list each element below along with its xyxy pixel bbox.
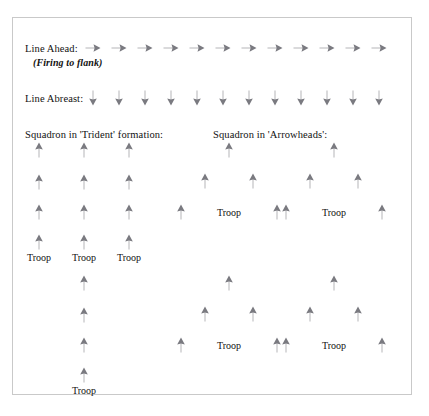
- arrow-line-ahead-icon: [85, 40, 101, 56]
- troop-label: Troop: [217, 341, 241, 351]
- firing-to-flank-label: (Firing to flank): [33, 58, 103, 68]
- diagram-canvas: Line Ahead: (Firing to flank) Line Abrea…: [13, 18, 411, 394]
- arrow-line-ahead-icon: [215, 40, 231, 56]
- arrow-arrowhead-4-icon: [374, 337, 390, 353]
- arrow-arrowhead-4-icon: [302, 306, 318, 322]
- arrow-trident-tail-icon: [76, 367, 92, 383]
- arrow-arrowhead-2-icon: [278, 204, 294, 220]
- arrow-trident-icon: [76, 142, 92, 158]
- arrow-line-ahead-icon: [163, 40, 179, 56]
- arrow-trident-icon: [76, 204, 92, 220]
- arrow-line-abreast-icon: [371, 90, 387, 106]
- arrow-line-ahead-icon: [241, 40, 257, 56]
- arrow-line-abreast-icon: [111, 90, 127, 106]
- troop-label: Troop: [217, 208, 241, 218]
- line-ahead-label: Line Ahead:: [25, 44, 78, 55]
- arrow-arrowhead-2-icon: [374, 204, 390, 220]
- line-abreast-label: Line Abreast:: [25, 94, 83, 105]
- troop-label: Troop: [72, 386, 96, 396]
- arrow-trident-icon: [121, 204, 137, 220]
- arrow-arrowhead-3-icon: [197, 306, 213, 322]
- arrow-line-abreast-icon: [267, 90, 283, 106]
- arrow-line-abreast-icon: [241, 90, 257, 106]
- arrow-arrowhead-3-icon: [221, 275, 237, 291]
- arrow-trident-tail-icon: [76, 275, 92, 291]
- arrow-trident-tail-icon: [76, 307, 92, 323]
- figure-frame: Line Ahead: (Firing to flank) Line Abrea…: [12, 17, 412, 395]
- troop-label: Troop: [322, 208, 346, 218]
- arrow-line-ahead-icon: [267, 40, 283, 56]
- arrow-line-abreast-icon: [215, 90, 231, 106]
- arrow-line-abreast-icon: [163, 90, 179, 106]
- arrow-line-ahead-icon: [371, 40, 387, 56]
- arrow-trident-icon: [121, 174, 137, 190]
- arrow-trident-icon: [31, 234, 47, 250]
- arrow-arrowhead-3-icon: [173, 337, 189, 353]
- arrow-trident-icon: [31, 174, 47, 190]
- troop-label: Troop: [27, 253, 51, 263]
- arrow-line-ahead-icon: [319, 40, 335, 56]
- arrow-line-abreast-icon: [137, 90, 153, 106]
- arrow-trident-icon: [31, 204, 47, 220]
- troop-label: Troop: [117, 253, 141, 263]
- arrow-line-ahead-icon: [293, 40, 309, 56]
- arrow-arrowhead-4-icon: [278, 337, 294, 353]
- arrow-trident-tail-icon: [76, 337, 92, 353]
- arrow-line-ahead-icon: [111, 40, 127, 56]
- arrow-trident-icon: [121, 234, 137, 250]
- arrowheads-formation-title: Squadron in 'Arrowheads':: [213, 130, 327, 141]
- arrow-arrowhead-2-icon: [326, 142, 342, 158]
- arrow-trident-icon: [31, 142, 47, 158]
- arrow-line-abreast-icon: [85, 90, 101, 106]
- arrow-arrowhead-3-icon: [245, 306, 261, 322]
- arrow-arrowhead-1-icon: [245, 173, 261, 189]
- troop-label: Troop: [72, 253, 96, 263]
- arrow-arrowhead-2-icon: [302, 173, 318, 189]
- arrow-line-abreast-icon: [345, 90, 361, 106]
- arrow-line-abreast-icon: [293, 90, 309, 106]
- arrow-arrowhead-4-icon: [350, 306, 366, 322]
- arrow-line-ahead-icon: [189, 40, 205, 56]
- arrow-trident-icon: [121, 142, 137, 158]
- arrow-arrowhead-1-icon: [197, 173, 213, 189]
- arrow-arrowhead-1-icon: [221, 142, 237, 158]
- arrow-line-ahead-icon: [137, 40, 153, 56]
- trident-formation-title: Squadron in 'Trident' formation:: [25, 130, 163, 141]
- arrow-line-abreast-icon: [319, 90, 335, 106]
- arrow-arrowhead-1-icon: [173, 204, 189, 220]
- arrow-trident-icon: [76, 234, 92, 250]
- arrow-arrowhead-4-icon: [326, 275, 342, 291]
- troop-label: Troop: [322, 341, 346, 351]
- arrow-arrowhead-2-icon: [350, 173, 366, 189]
- arrow-line-abreast-icon: [189, 90, 205, 106]
- arrow-line-ahead-icon: [345, 40, 361, 56]
- arrow-trident-icon: [76, 174, 92, 190]
